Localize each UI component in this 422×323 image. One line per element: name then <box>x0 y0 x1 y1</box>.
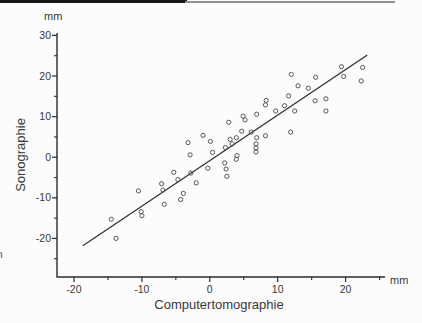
data-point <box>162 202 166 206</box>
data-point <box>254 150 258 154</box>
data-point <box>274 109 278 113</box>
x-tick-label: 10 <box>272 283 284 295</box>
data-point <box>210 150 214 154</box>
y-tick-label: 20 <box>39 70 51 82</box>
data-point <box>255 112 259 116</box>
data-point <box>361 65 365 69</box>
data-point <box>324 109 328 113</box>
data-point <box>208 139 212 143</box>
data-point <box>289 130 293 134</box>
x-tick-label: 0 <box>207 283 213 295</box>
data-point <box>339 65 343 69</box>
data-point <box>254 142 258 146</box>
x-tick-label: -10 <box>134 283 149 295</box>
data-point <box>223 145 227 149</box>
data-point <box>342 74 346 78</box>
data-point <box>306 86 310 90</box>
data-point <box>181 191 185 195</box>
data-point <box>109 217 113 221</box>
data-point <box>225 174 229 178</box>
axis-frame <box>57 33 385 277</box>
y-tick-label: 10 <box>39 110 51 122</box>
data-point <box>234 136 238 140</box>
data-point <box>176 178 180 182</box>
data-point <box>255 136 259 140</box>
data-point <box>224 167 228 171</box>
x-tick-label: 20 <box>340 283 352 295</box>
data-point <box>324 97 328 101</box>
data-point <box>206 166 210 170</box>
data-point <box>179 197 183 201</box>
data-point <box>240 129 244 133</box>
data-point <box>223 161 227 165</box>
data-point <box>160 182 164 186</box>
data-point <box>188 153 192 157</box>
y-tick-label: -20 <box>36 232 51 244</box>
data-point <box>264 98 268 102</box>
data-point <box>293 109 297 113</box>
data-point <box>287 94 291 98</box>
data-point <box>186 141 190 145</box>
data-point <box>201 133 205 137</box>
y-tick-label: -10 <box>36 191 51 203</box>
data-point <box>194 181 198 185</box>
data-point <box>140 214 144 218</box>
data-point <box>136 189 140 193</box>
data-point <box>296 84 300 88</box>
data-point <box>243 118 247 122</box>
x-tick-label: -20 <box>66 283 81 295</box>
y-tick-label: 0 <box>45 151 51 163</box>
data-point <box>114 236 118 240</box>
data-point <box>314 75 318 79</box>
data-point <box>282 104 286 108</box>
y-tick-label: 30 <box>39 29 51 41</box>
data-point <box>172 170 176 174</box>
data-point <box>139 210 143 214</box>
data-point <box>263 103 267 107</box>
data-point <box>228 137 232 141</box>
data-point <box>359 79 363 83</box>
scanned-scatter-plot-figure: ı n mm mm Sonographie Computertomographi… <box>0 0 422 323</box>
data-point <box>289 72 293 76</box>
fit-line <box>83 55 368 246</box>
data-point <box>254 146 258 150</box>
data-point <box>263 134 267 138</box>
data-point <box>227 120 231 124</box>
scatter-plot-canvas: -20-10010203020100-10-20 <box>0 0 422 323</box>
data-point <box>313 99 317 103</box>
